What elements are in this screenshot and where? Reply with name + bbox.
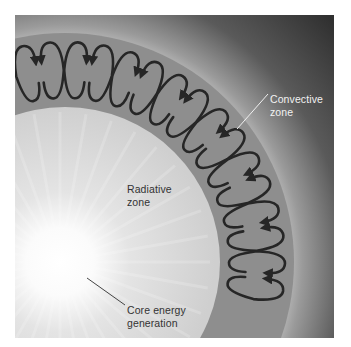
diagram-canvas [15, 15, 334, 338]
solar-interior-diagram: Convective zone Radiative zone Core ener… [15, 15, 334, 338]
core-energy-label: Core energy generation [127, 304, 186, 330]
radiative-zone-label: Radiative zone [127, 183, 172, 209]
convective-zone-label: Convective zone [270, 93, 323, 119]
